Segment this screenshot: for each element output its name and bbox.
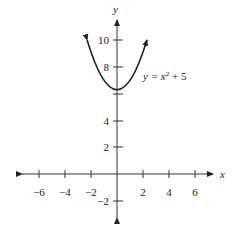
graph: −6 −4 −2 2 4 6 10 8 4 2 −2 x y y = x2 + … (0, 0, 235, 231)
x-tick-label: 4 (166, 186, 172, 198)
y-tick-label: 10 (98, 34, 110, 46)
x-tick-label: 6 (192, 186, 198, 198)
y-tick-label: −2 (97, 195, 109, 207)
y-ticks (113, 40, 123, 201)
x-tick-label: −2 (85, 186, 97, 198)
x-tick-label: 2 (140, 186, 146, 198)
x-tick-label: −6 (33, 186, 45, 198)
y-tick-label: 8 (104, 61, 110, 73)
equation-label: y = x2 + 5 (142, 70, 187, 82)
x-tick-label: −4 (59, 186, 71, 198)
y-tick-label: 2 (104, 141, 110, 153)
y-axis-label: y (112, 3, 118, 15)
x-axis-label: x (219, 168, 225, 180)
y-tick-label: 4 (104, 115, 110, 127)
